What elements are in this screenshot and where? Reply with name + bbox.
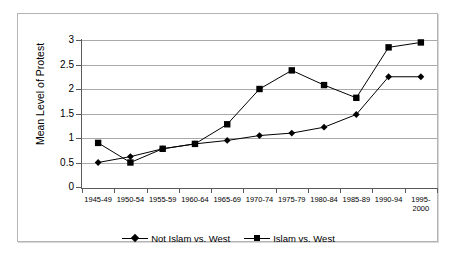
y-axis-tick bbox=[76, 89, 82, 90]
gridline bbox=[82, 163, 437, 164]
x-axis-tick bbox=[147, 189, 148, 193]
x-axis-tick bbox=[179, 189, 180, 193]
gridline bbox=[82, 114, 437, 115]
x-axis-tick bbox=[405, 189, 406, 193]
x-axis-tick bbox=[340, 189, 341, 193]
y-axis-tick-label: 2 bbox=[68, 84, 74, 94]
y-axis-tick bbox=[76, 163, 82, 164]
x-axis-tick-label: 1960-64 bbox=[181, 195, 209, 204]
x-axis-tick-label: 1990-94 bbox=[375, 195, 403, 204]
diamond-marker-icon bbox=[122, 233, 148, 243]
legend-item-not-islam-vs-west[interactable]: Not Islam vs. West bbox=[122, 233, 230, 244]
plot-area bbox=[82, 40, 437, 187]
x-axis-tick bbox=[243, 189, 244, 193]
x-axis-line bbox=[81, 188, 438, 189]
gridline bbox=[82, 138, 437, 139]
x-axis-tick-label: 1970-74 bbox=[246, 195, 274, 204]
x-axis-tick-label: 1995- 2000 bbox=[411, 195, 430, 213]
x-axis-tick bbox=[308, 189, 309, 193]
legend-item-islam-vs-west[interactable]: Islam vs. West bbox=[244, 233, 335, 244]
x-axis-tick-label: 1985-89 bbox=[343, 195, 371, 204]
y-axis-tick-label: 1 bbox=[68, 133, 74, 143]
x-axis-tick bbox=[372, 189, 373, 193]
legend-label: Islam vs. West bbox=[273, 233, 335, 244]
chart-frame: Mean Level of Protest 00.511.522.53 Not … bbox=[17, 13, 438, 242]
x-axis-tick bbox=[82, 189, 83, 193]
y-axis-tick bbox=[76, 114, 82, 115]
x-axis-tick bbox=[276, 189, 277, 193]
y-axis-tick-label: 0.5 bbox=[60, 158, 74, 168]
gridline bbox=[82, 65, 437, 66]
y-axis-tick-label: 1.5 bbox=[60, 109, 74, 119]
legend-label: Not Islam vs. West bbox=[151, 233, 230, 244]
y-axis-tick bbox=[76, 40, 82, 41]
y-axis-tick-label: 0 bbox=[68, 182, 74, 192]
y-axis-tick-labels: 00.511.522.53 bbox=[46, 14, 74, 243]
x-axis-tick-label: 1975-79 bbox=[278, 195, 306, 204]
y-axis-tick-label: 2.5 bbox=[60, 60, 74, 70]
x-axis-tick-label: 1950-54 bbox=[117, 195, 145, 204]
gridline bbox=[82, 89, 437, 90]
x-axis-tick-label: 1980-84 bbox=[310, 195, 338, 204]
y-axis-tick bbox=[76, 65, 82, 66]
y-axis-title: Mean Level of Protest bbox=[34, 24, 46, 164]
x-axis-tick bbox=[114, 189, 115, 193]
x-axis-tick bbox=[211, 189, 212, 193]
square-marker-icon bbox=[244, 233, 270, 243]
y-axis-tick bbox=[76, 187, 82, 188]
x-axis-tick bbox=[437, 189, 438, 193]
y-axis-tick-label: 3 bbox=[68, 35, 74, 45]
gridline bbox=[82, 40, 437, 41]
x-axis-tick-label: 1965-69 bbox=[213, 195, 241, 204]
x-axis-tick-label: 1955-59 bbox=[149, 195, 177, 204]
chart-legend: Not Islam vs. West Islam vs. West bbox=[18, 230, 439, 246]
x-axis-tick-label: 1945-49 bbox=[84, 195, 112, 204]
y-axis-tick bbox=[76, 138, 82, 139]
chart-figure: Mean Level of Protest 00.511.522.53 Not … bbox=[0, 0, 456, 256]
